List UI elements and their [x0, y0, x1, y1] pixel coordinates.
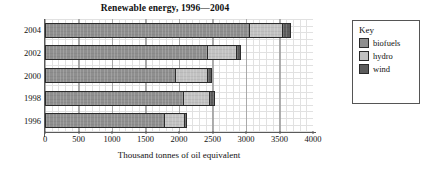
bar-segment-hydro[interactable] [175, 68, 208, 83]
legend-item-wind[interactable]: wind [359, 64, 419, 74]
bar-segment-biofuels[interactable] [45, 91, 184, 106]
y-tick-label: 2004 [1, 25, 41, 35]
bar-segment-biofuels[interactable] [45, 23, 250, 38]
bar-segment-biofuels[interactable] [45, 68, 176, 83]
bar-segment-wind[interactable] [209, 91, 214, 106]
bar-segment-wind[interactable] [282, 23, 291, 38]
y-axis-tick-labels: 20042002200019981996 [0, 19, 41, 132]
legend-items: biofuelshydrowind [359, 38, 419, 74]
x-tick-label: 3000 [238, 134, 255, 144]
bar-segment-hydro[interactable] [249, 23, 283, 38]
x-axis-tick-labels: 05001000150020002500300035004000 [45, 134, 317, 146]
y-tick-label: 1998 [1, 93, 41, 103]
x-tick-label: 0 [43, 134, 47, 144]
y-tick-label: 1996 [1, 116, 41, 126]
y-tick-label: 2000 [1, 71, 41, 81]
x-tick-label: 2000 [171, 134, 188, 144]
chart-title: Renewable energy, 1996—2004 [0, 3, 330, 13]
legend-swatch-hydro [359, 51, 369, 61]
legend-swatch-biofuels [359, 38, 369, 48]
legend-box: Key biofuelshydrowind [352, 20, 420, 104]
x-tick-label: 2500 [204, 134, 221, 144]
chart-container: Renewable energy, 1996—2004 200420022000… [0, 0, 429, 175]
legend-swatch-wind [359, 64, 369, 74]
bar-segment-wind[interactable] [236, 45, 241, 60]
legend-title: Key [359, 25, 419, 35]
bar-segment-hydro[interactable] [164, 113, 185, 128]
x-tick-label: 3500 [271, 134, 288, 144]
bar-row[interactable] [45, 45, 240, 60]
bar-segment-hydro[interactable] [183, 91, 210, 106]
x-axis-label: Thousand tonnes of oil equivalent [45, 150, 313, 160]
bar-segment-wind[interactable] [207, 68, 212, 83]
bar-segment-biofuels[interactable] [45, 45, 208, 60]
legend-item-biofuels[interactable]: biofuels [359, 38, 419, 48]
bar-row[interactable] [45, 23, 290, 38]
legend-item-hydro[interactable]: hydro [359, 51, 419, 61]
bar-segment-hydro[interactable] [207, 45, 237, 60]
plot-area [45, 19, 313, 132]
x-tick-label: 1500 [137, 134, 154, 144]
y-tick-label: 2002 [1, 48, 41, 58]
bar-segment-wind[interactable] [184, 113, 187, 128]
legend-label: wind [373, 64, 390, 74]
x-tick-label: 500 [72, 134, 85, 144]
x-tick-label: 4000 [305, 134, 322, 144]
bar-row[interactable] [45, 113, 186, 128]
bar-row[interactable] [45, 91, 214, 106]
x-tick-label: 1000 [104, 134, 121, 144]
bar-segment-biofuels[interactable] [45, 113, 165, 128]
legend-label: biofuels [373, 38, 400, 48]
bar-row[interactable] [45, 68, 211, 83]
legend-label: hydro [373, 51, 393, 61]
x-axis-line [44, 132, 316, 133]
